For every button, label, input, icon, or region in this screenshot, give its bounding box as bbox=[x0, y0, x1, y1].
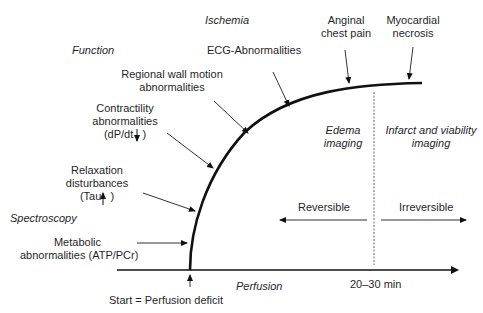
angina-arrow bbox=[345, 50, 349, 83]
label-edema-line2: imaging bbox=[318, 137, 368, 150]
label-wall-line2: abnormalities bbox=[112, 81, 232, 94]
label-necrosis-line2: necrosis bbox=[378, 27, 448, 40]
category-function: Function bbox=[72, 44, 114, 57]
time-axis-arrowhead bbox=[451, 266, 459, 274]
label-infarct-viability-imaging: Infarct and viability imaging bbox=[382, 124, 480, 150]
label-reversible: Reversible bbox=[298, 201, 350, 214]
label-anginal-chest-pain: Anginal chest pain bbox=[315, 14, 377, 40]
label-relaxation: Relaxation disturbances (Tau ) bbox=[62, 164, 132, 203]
label-metabolic: Metabolic abnormalities (ATP/PCr) bbox=[20, 236, 135, 262]
category-spectroscopy: Spectroscopy bbox=[10, 212, 77, 225]
label-time-mark: 20–30 min bbox=[350, 278, 401, 291]
label-anginal-line2: chest pain bbox=[315, 27, 377, 40]
category-perfusion: Perfusion bbox=[236, 280, 282, 293]
label-relaxation-line3: (Tau ) bbox=[62, 190, 132, 203]
label-relaxation-line2: disturbances bbox=[62, 177, 132, 190]
label-irreversible: Irreversible bbox=[399, 201, 453, 214]
tau-text: (Tau bbox=[80, 190, 101, 202]
dpdt-close: ) bbox=[142, 128, 146, 140]
relaxation-arrow bbox=[143, 193, 195, 211]
label-necrosis-line1: Myocardial bbox=[378, 14, 448, 27]
ecg-arrow bbox=[273, 72, 289, 106]
label-contractility-line2: abnormalities bbox=[90, 115, 160, 128]
label-contractility-line1: Contractility bbox=[90, 102, 160, 115]
tau-close: ) bbox=[110, 190, 114, 202]
label-edema-line1: Edema bbox=[318, 124, 368, 137]
label-metabolic-line1: Metabolic bbox=[20, 236, 135, 249]
label-regional-wall-motion: Regional wall motion abnormalities bbox=[112, 68, 232, 94]
label-edema-imaging: Edema imaging bbox=[318, 124, 368, 150]
label-start-perfusion-deficit: Start = Perfusion deficit bbox=[109, 294, 223, 307]
category-ischemia: Ischemia bbox=[205, 14, 249, 27]
label-metabolic-line2: abnormalities (ATP/PCr) bbox=[20, 249, 135, 262]
necrosis-arrow bbox=[409, 47, 413, 79]
label-relaxation-line1: Relaxation bbox=[62, 164, 132, 177]
label-ecg-abnormalities: ECG-Abnormalities bbox=[207, 44, 301, 57]
label-myocardial-necrosis: Myocardial necrosis bbox=[378, 14, 448, 40]
label-infarct-line2: imaging bbox=[382, 137, 480, 150]
label-anginal-line1: Anginal bbox=[315, 14, 377, 27]
label-wall-line1: Regional wall motion bbox=[112, 68, 232, 81]
wall-motion-arrow bbox=[214, 101, 248, 133]
label-infarct-line1: Infarct and viability bbox=[382, 124, 480, 137]
label-contractility: Contractility abnormalities (dP/dt ) bbox=[90, 102, 160, 141]
dpdt-text: (dP/dt bbox=[104, 128, 133, 140]
contractility-arrow bbox=[167, 133, 213, 168]
label-contractility-line3: (dP/dt ) bbox=[90, 128, 160, 141]
